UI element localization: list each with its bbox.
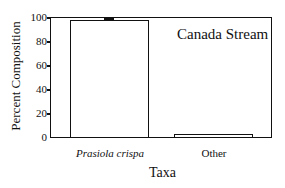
y-tick <box>47 113 51 115</box>
bar-prasiola-crispa <box>70 20 149 137</box>
x-tick-label: Other <box>172 147 256 159</box>
y-tick <box>47 41 51 43</box>
x-tick-label: Prasiola crispa <box>68 147 152 159</box>
y-tick-label: 0 <box>17 132 47 143</box>
y-tick <box>47 89 51 91</box>
y-tick-label: 80 <box>17 36 47 47</box>
bar-other <box>174 134 253 137</box>
x-axis-title: Taxa <box>0 165 285 181</box>
y-tick-label: 40 <box>17 84 47 95</box>
chart-title: Canada Stream <box>177 26 268 43</box>
error-bar <box>104 18 114 21</box>
y-tick <box>47 17 51 19</box>
plot-area: Canada Stream <box>50 17 272 138</box>
y-tick-label: 60 <box>17 60 47 71</box>
y-tick <box>47 65 51 67</box>
y-tick-label: 20 <box>17 108 47 119</box>
y-tick-label: 100 <box>17 12 47 23</box>
